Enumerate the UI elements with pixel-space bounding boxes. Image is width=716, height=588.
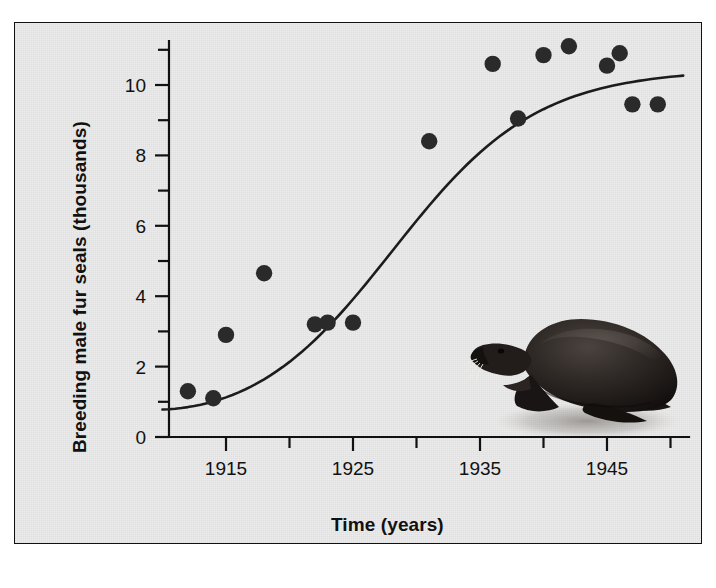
logistic-fit-curve bbox=[163, 76, 684, 410]
y-tick-label-6: 6 bbox=[135, 216, 146, 237]
data-point bbox=[485, 56, 501, 72]
data-point bbox=[345, 314, 361, 330]
x-axis-tick-labels: 1915 1925 1935 1945 bbox=[205, 458, 628, 479]
y-axis-title: Breeding male fur seals (thousands) bbox=[69, 121, 91, 453]
data-point bbox=[599, 57, 615, 73]
scatter-points bbox=[180, 38, 666, 406]
y-tick-label-2: 2 bbox=[135, 357, 146, 378]
x-tick-label-1935: 1935 bbox=[459, 458, 501, 479]
data-point bbox=[510, 110, 526, 126]
data-point bbox=[319, 314, 335, 330]
data-point bbox=[256, 265, 272, 281]
data-point bbox=[624, 96, 640, 112]
y-tick-label-10: 10 bbox=[125, 75, 146, 96]
data-point bbox=[535, 47, 551, 63]
x-tick-label-1915: 1915 bbox=[205, 458, 247, 479]
data-point bbox=[205, 390, 221, 406]
y-axis-tick-labels: 0 2 4 6 8 10 bbox=[125, 75, 147, 448]
data-point bbox=[218, 327, 234, 343]
data-point bbox=[180, 383, 196, 399]
y-tick-label-4: 4 bbox=[135, 286, 146, 307]
x-axis-ticks bbox=[226, 437, 671, 451]
x-tick-label-1925: 1925 bbox=[332, 458, 374, 479]
x-axis-title: Time (years) bbox=[331, 514, 444, 536]
chart-panel: 0 2 4 6 8 10 1915 1925 1935 bbox=[14, 22, 702, 544]
y-tick-label-8: 8 bbox=[135, 145, 146, 166]
figure-root: 0 2 4 6 8 10 1915 1925 1935 bbox=[0, 0, 716, 588]
x-tick-label-1945: 1945 bbox=[586, 458, 628, 479]
data-point bbox=[561, 38, 577, 54]
plot-area: 0 2 4 6 8 10 1915 1925 1935 bbox=[15, 23, 703, 545]
y-axis-ticks bbox=[155, 50, 169, 437]
data-point bbox=[650, 96, 666, 112]
data-point bbox=[612, 45, 628, 61]
y-tick-label-0: 0 bbox=[135, 427, 146, 448]
data-point bbox=[421, 133, 437, 149]
